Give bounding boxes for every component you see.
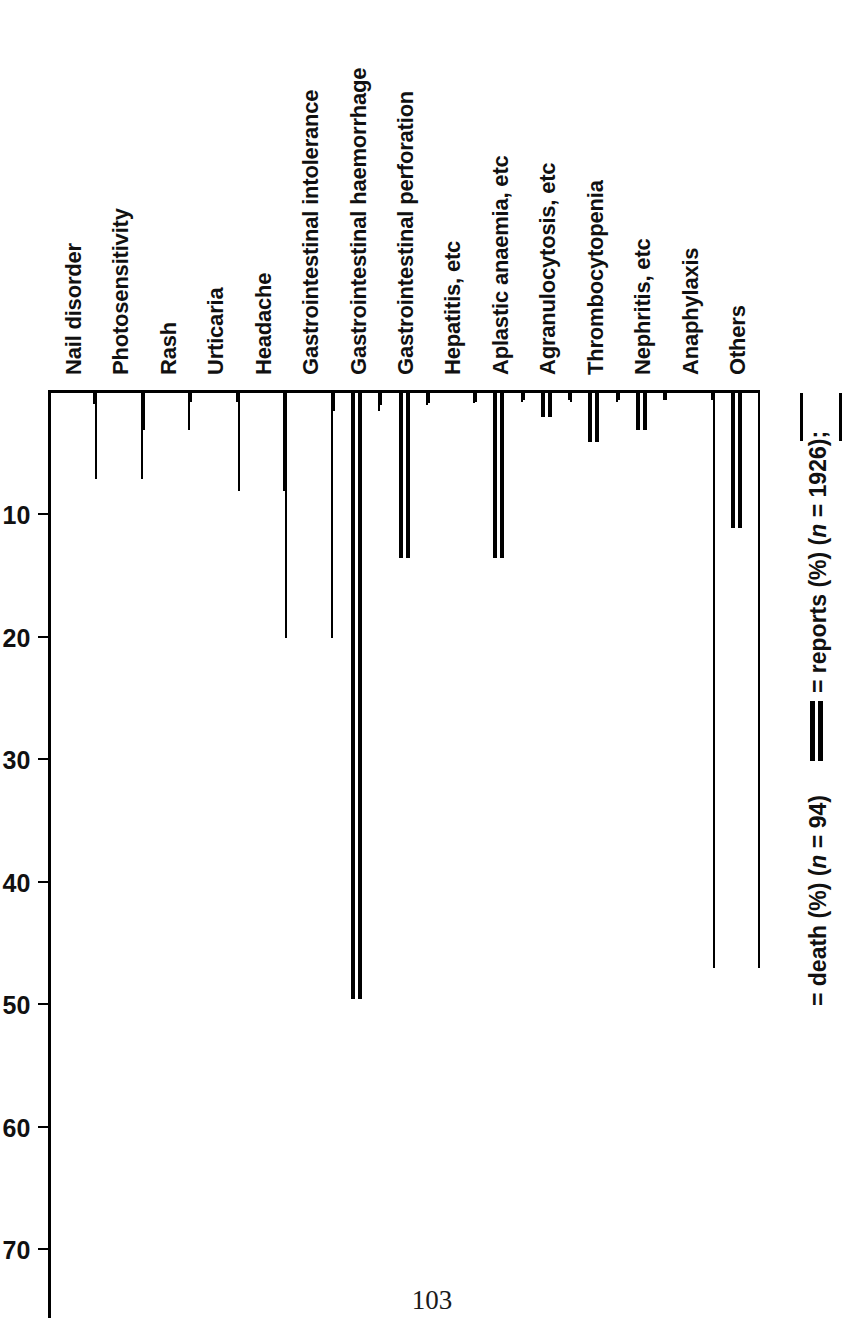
axis-tick-label: 40 — [0, 868, 47, 897]
axis-tick-label: 50 — [0, 991, 47, 1020]
bar-death — [636, 393, 647, 430]
bar-reports — [238, 393, 285, 491]
category-label: Gastrointestinal haemorrhage — [346, 68, 372, 375]
legend-swatch-death — [810, 701, 823, 761]
bar-reports — [190, 393, 237, 402]
axis-tick-label: 60 — [0, 1113, 47, 1142]
bar-death — [399, 393, 410, 558]
category-label: Photosensitivity — [108, 208, 134, 375]
category-label: Agranulocytosis, etc — [535, 163, 561, 375]
category-label: Gastrointestinal intolerance — [298, 90, 324, 375]
category-label: Aplastic anaemia, etc — [488, 155, 514, 375]
legend-label-death: = death (%) (n = 94) — [805, 795, 832, 1006]
category-label: Hepatitis, etc — [440, 241, 466, 375]
page-number: 103 — [0, 1285, 864, 1316]
bar-reports — [95, 393, 142, 479]
category-label: Nephritis, etc — [630, 238, 656, 375]
bar-death — [351, 393, 362, 999]
bar-death — [588, 393, 599, 442]
category-label: Gastrointestinal perforation — [393, 91, 419, 375]
legend-label-reports: = reports (%) (n = 1926); — [805, 431, 832, 693]
category-label: Others — [725, 305, 751, 375]
bar-death — [541, 393, 552, 417]
category-label: Urticaria — [203, 288, 229, 375]
axis-tick-label: 10 — [0, 501, 47, 530]
axis-tick-label: 20 — [0, 623, 47, 652]
category-label: Headache — [251, 273, 277, 375]
category-label: Anaphylaxis — [678, 248, 704, 375]
bar-reports — [143, 393, 190, 430]
bar-reports — [48, 393, 95, 404]
plot-area: 10203040506070 Nail disorderPhotosensiti… — [0, 0, 864, 1330]
bar-reports — [285, 393, 332, 638]
category-label: Nail disorder — [61, 243, 87, 375]
bar-death — [731, 393, 742, 528]
bar-death — [493, 393, 504, 558]
axis-tick-label: 30 — [0, 746, 47, 775]
bar-reports — [428, 393, 475, 403]
value-axis-line — [48, 393, 51, 1318]
figure-stage: 10203040506070 Nail disorderPhotosensiti… — [0, 0, 864, 1330]
category-label: Rash — [156, 322, 182, 375]
axis-tick-label: 70 — [0, 1236, 47, 1265]
category-label: Thrombocytopenia — [583, 180, 609, 375]
bar-reports — [665, 393, 712, 400]
